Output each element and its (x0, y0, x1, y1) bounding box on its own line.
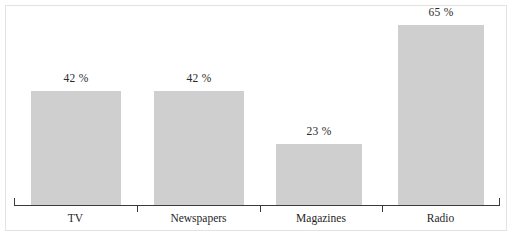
bar-newspapers (154, 91, 244, 205)
axis-tick-2 (260, 205, 261, 212)
bar-value-label-3: 65 % (398, 6, 484, 18)
category-label-radio: Radio (382, 212, 499, 224)
bar-magazines (276, 144, 362, 205)
category-label-newspapers: Newspapers (137, 212, 260, 224)
bar-value-label-2: 23 % (276, 125, 362, 137)
bar-radio (398, 25, 484, 205)
category-label-tv: TV (14, 212, 137, 224)
bar-tv (31, 91, 121, 205)
axis-tick-start (14, 198, 15, 206)
axis-tick-end (499, 198, 500, 206)
bar-chart-figure: 42 % 42 % 23 % 65 % TV Newspapers Magazi… (0, 0, 513, 237)
axis-tick-3 (382, 205, 383, 212)
bar-value-label-1: 42 % (154, 72, 244, 84)
category-label-magazines: Magazines (260, 212, 382, 224)
x-axis-line (14, 205, 500, 206)
bar-value-label-0: 42 % (31, 72, 121, 84)
plot-area: 42 % 42 % 23 % 65 % TV Newspapers Magazi… (0, 0, 513, 237)
axis-tick-1 (137, 205, 138, 212)
